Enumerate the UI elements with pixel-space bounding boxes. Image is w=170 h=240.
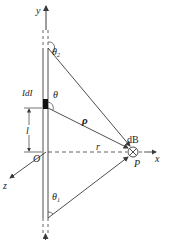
- wire: [43, 48, 48, 218]
- line-top-to-p: [48, 48, 130, 146]
- length-label: l: [26, 125, 29, 136]
- theta1-arc: [48, 212, 53, 214]
- line-bottom-to-p: [48, 157, 128, 218]
- biot-savart-diagram: y IdI l O x r z: [0, 0, 170, 240]
- wire-dashed-bottom: [43, 218, 48, 234]
- wire-dashed-top: [43, 30, 48, 48]
- theta-label: θ: [53, 89, 58, 100]
- x-axis-label: x: [154, 153, 160, 164]
- rho-label: ρ: [81, 114, 88, 126]
- current-element: [43, 99, 48, 109]
- theta2-label: θ2: [52, 46, 60, 58]
- current-element-label: IdI: [21, 88, 33, 98]
- distance-r-label: r: [96, 141, 100, 152]
- z-axis-label: z: [2, 180, 7, 191]
- y-axis-label: y: [35, 5, 41, 16]
- field-element-label: dB: [127, 134, 139, 145]
- point-p-label: P: [133, 158, 140, 169]
- into-page-icon: [128, 147, 138, 157]
- z-axis: [10, 152, 46, 178]
- rho-vector: [48, 108, 128, 148]
- theta1-label: θ1: [52, 191, 60, 203]
